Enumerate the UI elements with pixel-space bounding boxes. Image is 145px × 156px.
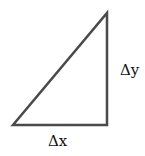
diagram-canvas: Δy Δx xyxy=(0,0,145,156)
delta-x-label: Δx xyxy=(48,132,67,150)
triangle-shape xyxy=(13,13,107,125)
delta-y-label: Δy xyxy=(120,61,139,79)
